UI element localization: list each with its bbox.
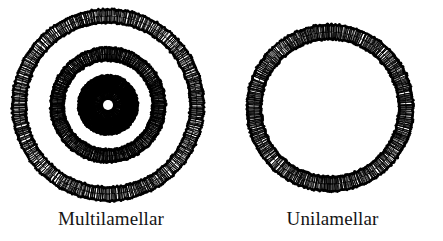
single-bilayer: [245, 23, 415, 194]
caption-unilamellar: Unilamellar: [222, 208, 443, 230]
liposome-figure: Multilamellar Unilamellar: [0, 0, 443, 241]
unilamellar-vesicle-diagram: [222, 0, 443, 208]
multilamellar-vesicle-diagram: [0, 0, 222, 208]
aqueous-core: [103, 100, 113, 110]
caption-multilamellar: Multilamellar: [0, 208, 222, 230]
panel-multilamellar: Multilamellar: [0, 0, 222, 241]
panel-unilamellar: Unilamellar: [222, 0, 443, 241]
